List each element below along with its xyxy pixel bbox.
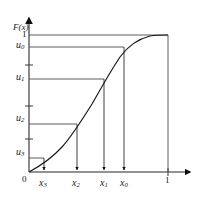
u0-sub: 0 <box>21 43 24 50</box>
y-tick-label-u1: u1 <box>16 72 24 82</box>
cdf-curve <box>29 35 168 172</box>
plot-canvas <box>0 0 202 205</box>
x-tick-label-x1: x1 <box>100 178 108 188</box>
y-tick-label-u2: u2 <box>16 113 24 123</box>
u2-sub: 2 <box>21 116 24 123</box>
y-tick-label-one: 1 <box>22 30 27 39</box>
x-tick-label-x2: x2 <box>72 178 80 188</box>
x0-sub: 0 <box>124 181 127 188</box>
y-tick-label-u0: u0 <box>16 40 24 50</box>
x3-sub: 3 <box>43 181 46 188</box>
u3-sub: 3 <box>21 150 24 157</box>
x-tick-label-one: 1 <box>165 176 170 185</box>
x2-sub: 2 <box>76 181 79 188</box>
x-tick-label-x0: x0 <box>120 178 128 188</box>
x1-sub: 1 <box>104 181 107 188</box>
cdf-figure: F(x) 1 u0 u1 u2 u3 0 x3 x2 x1 x0 1 <box>0 0 202 205</box>
u1-sub: 1 <box>21 75 24 82</box>
y-tick-label-u3: u3 <box>16 147 24 157</box>
x-tick-label-x3: x3 <box>39 178 47 188</box>
x-tick-label-origin: 0 <box>22 175 27 184</box>
